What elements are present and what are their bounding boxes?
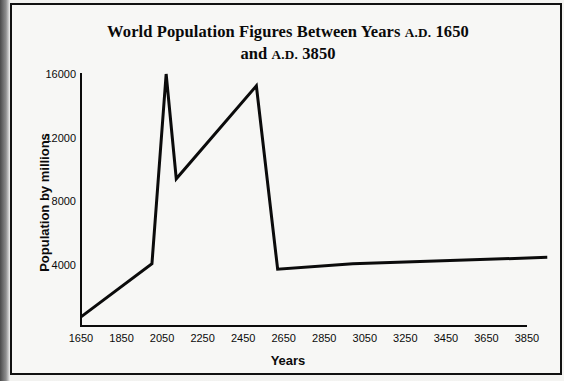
figure-frame: World Population Figures Between Years A… xyxy=(10,3,562,375)
population-line-series xyxy=(81,74,547,317)
plot-area: 400080001200016000 165018502050225024502… xyxy=(12,5,564,377)
data-series-layer xyxy=(12,5,564,377)
scanned-page-background: World Population Figures Between Years A… xyxy=(0,0,564,381)
figure-canvas: World Population Figures Between Years A… xyxy=(12,5,560,373)
